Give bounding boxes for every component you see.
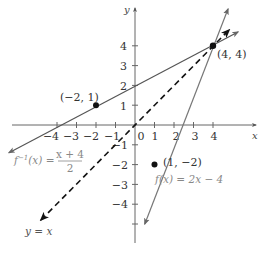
- axes: x y: [12, 4, 258, 243]
- x-tick-label: 1: [152, 130, 159, 143]
- x-axis-label: x: [252, 130, 258, 141]
- point-label-1-neg2: (1, −2): [163, 156, 202, 169]
- point-label-neg2-1: (−2, 1): [60, 91, 99, 104]
- function-line: [145, 9, 228, 224]
- x-tick-label: −2: [83, 130, 99, 143]
- x-tick-label: 4: [211, 130, 218, 143]
- x-tick-label: 0: [138, 130, 145, 143]
- y-tick-label: −3: [112, 179, 128, 192]
- point-1-neg2: [152, 162, 158, 168]
- point-label-4-4: (4, 4): [217, 48, 247, 61]
- inverse-function-label: f−1(x) = x + 4 2: [13, 148, 84, 174]
- svg-text:2: 2: [67, 162, 74, 174]
- y-tick-label: 3: [120, 60, 127, 73]
- x-tick-label: −3: [63, 130, 79, 143]
- point-4-4: [210, 43, 216, 49]
- y-tick-label: −4: [112, 198, 128, 211]
- svg-text:f−1(x) =: f−1(x) =: [13, 154, 54, 166]
- function-label: f(x) = 2x − 4: [154, 173, 223, 185]
- function-inverse-graph: x y −4 −3 −2 −1 0 1 2 3 4 4 3 2: [0, 0, 271, 255]
- y-axis-label: y: [123, 4, 130, 15]
- y-tick-label: −2: [112, 159, 128, 172]
- y-tick-label: 4: [120, 40, 127, 53]
- identity-line-label: y = x: [24, 225, 52, 237]
- y-tick-label: 1: [120, 100, 127, 113]
- x-tick-label: −4: [43, 130, 59, 143]
- x-tick-labels: −4 −3 −2 −1 0 1 2 3 4: [43, 130, 218, 143]
- x-tick-label: 3: [192, 130, 199, 143]
- svg-text:x + 4: x + 4: [56, 148, 84, 160]
